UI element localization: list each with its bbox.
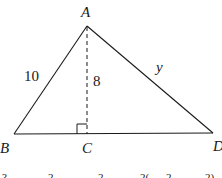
label-c: C [82,140,93,156]
label-a: A [80,4,91,20]
segment-ad [87,26,213,133]
svg-text:?: ? [2,171,7,178]
label-d: D [212,138,222,154]
svg-text:2): 2) [205,171,215,178]
svg-text:2: 2 [98,171,104,178]
triangle-diagram: A B C D 10 8 y ? 2 2 2( 2 2) [0,0,222,178]
label-b: B [0,140,9,156]
label-altitude-ac: 8 [93,73,101,89]
right-angle-marker [77,124,87,134]
svg-text:2(: 2( [140,171,150,178]
svg-text:2: 2 [166,171,172,178]
svg-text:2: 2 [48,171,54,178]
cropped-equation: ? 2 2 2( 2 2) [2,171,215,178]
label-side-ab: 10 [24,68,39,84]
segment-bd [14,133,213,134]
label-side-ad: y [154,59,163,75]
